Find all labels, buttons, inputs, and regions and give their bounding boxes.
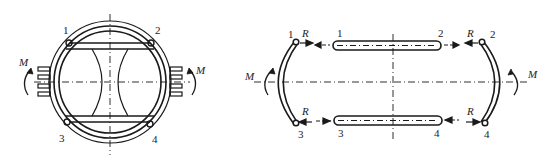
- label-bar-4: 4: [434, 127, 440, 139]
- label-moment-right-right-fig: M: [527, 68, 538, 80]
- label-arc-3: 3: [298, 128, 304, 140]
- force-arrow-top-right-icon: [444, 40, 478, 48]
- right-arc-outer: [483, 41, 500, 124]
- label-moment-left-right-fig: M: [244, 70, 255, 82]
- moment-arrowhead-left-icon: [27, 68, 33, 74]
- joint-3: [64, 119, 70, 125]
- left-arc-outer: [278, 41, 295, 124]
- moment-arrowhead-right-right-fig-icon: [508, 69, 513, 75]
- label-arc-2: 2: [490, 28, 496, 40]
- label-node-3: 3: [59, 132, 65, 144]
- label-force-tl: R: [301, 27, 309, 39]
- label-force-tr: R: [466, 27, 474, 39]
- arc-joint-4: [482, 120, 488, 126]
- label-bar-3: 3: [338, 127, 344, 139]
- label-bar-2: 2: [438, 27, 444, 39]
- diagram-canvas: 1 2 3 4 M M: [0, 0, 552, 162]
- force-arrow-bottom-left-icon: [299, 118, 331, 125]
- right-clamp: [170, 67, 182, 96]
- moment-arrow-left-right-fig-icon: [265, 70, 272, 95]
- moment-arrowhead-left-right-fig-icon: [269, 68, 275, 74]
- force-arrow-bottom-right-icon: [445, 117, 480, 125]
- label-node-4: 4: [152, 133, 158, 145]
- label-bar-1: 1: [337, 27, 343, 39]
- moment-arrowhead-right-icon: [187, 68, 193, 74]
- arc-joint-1: [293, 39, 299, 45]
- left-clamp: [38, 67, 50, 96]
- label-arc-1: 1: [288, 28, 294, 40]
- arc-joint-2: [479, 39, 485, 45]
- label-force-bl: R: [301, 105, 309, 117]
- force-arrow-top-left-icon: [300, 40, 330, 48]
- label-arc-4: 4: [484, 128, 490, 140]
- label-moment-left: M: [18, 56, 29, 68]
- link-left-arc: [92, 49, 102, 116]
- label-force-br: R: [466, 105, 474, 117]
- arc-joint-3: [293, 120, 299, 126]
- right-figure-labels: 1 2 3 4 1 2 3 4 R R R R M M: [244, 27, 538, 140]
- label-moment-right: M: [195, 64, 206, 76]
- moment-arrow-right-right-fig-icon: [512, 72, 518, 95]
- left-figure: [24, 14, 195, 155]
- right-figure: [254, 34, 528, 140]
- label-node-1: 1: [63, 24, 69, 36]
- link-right-arc: [118, 49, 128, 116]
- label-node-2: 2: [155, 24, 161, 36]
